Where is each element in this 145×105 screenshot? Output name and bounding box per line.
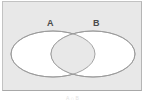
set-b-label: B: [93, 18, 100, 28]
venn-diagram-panel: A B: [2, 1, 142, 91]
set-a-label: A: [47, 18, 54, 28]
venn-diagram-figure: A B A ∩ B: [0, 0, 145, 105]
caption-strip: A ∩ B: [0, 93, 145, 105]
figure-caption: A ∩ B: [0, 95, 145, 101]
venn-diagram-graphic: [3, 2, 142, 91]
